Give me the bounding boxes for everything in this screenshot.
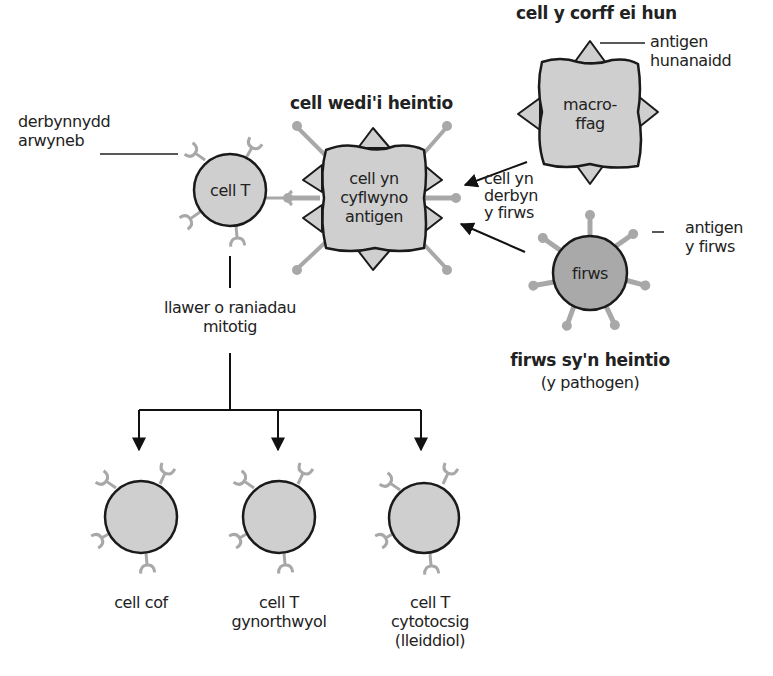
virus-title: firws sy'n heintio <box>495 351 685 370</box>
cytotoxic-t-cell <box>375 463 459 575</box>
uptake-arrow-2 <box>461 224 525 252</box>
uptake-label: cell yn derbyn y firws <box>484 170 538 221</box>
infected-cell-title: cell wedi'i heintio <box>290 94 453 113</box>
infected-cell-label: cell yn cyflwyno antigen <box>330 169 418 226</box>
helper-t-cell <box>229 463 315 574</box>
self-antigen-label: antigen hunanaidd <box>650 32 731 70</box>
self-cell-title: cell y corff ei hun <box>516 4 677 23</box>
t-cell <box>100 137 292 246</box>
virus-subtitle: (y pathogen) <box>495 373 685 392</box>
t-cell-label: cell T <box>200 181 260 200</box>
virus-antigen-label: antigen y firws <box>685 218 743 256</box>
macrophage-label: macro- ffag <box>562 95 618 133</box>
virus-label: firws <box>560 264 620 283</box>
surface-receptor-label: derbynnydd arwyneb <box>18 112 110 150</box>
mitotic-division-label: llawer o raniadau mitotig <box>140 298 320 336</box>
memory-cell <box>91 463 177 574</box>
memory-cell-label: cell cof <box>96 593 186 612</box>
cytotoxic-t-cell-label: cell T cytotocsig (lleiddiol) <box>380 593 480 650</box>
helper-t-cell-label: cell T gynorthwyol <box>224 593 334 631</box>
